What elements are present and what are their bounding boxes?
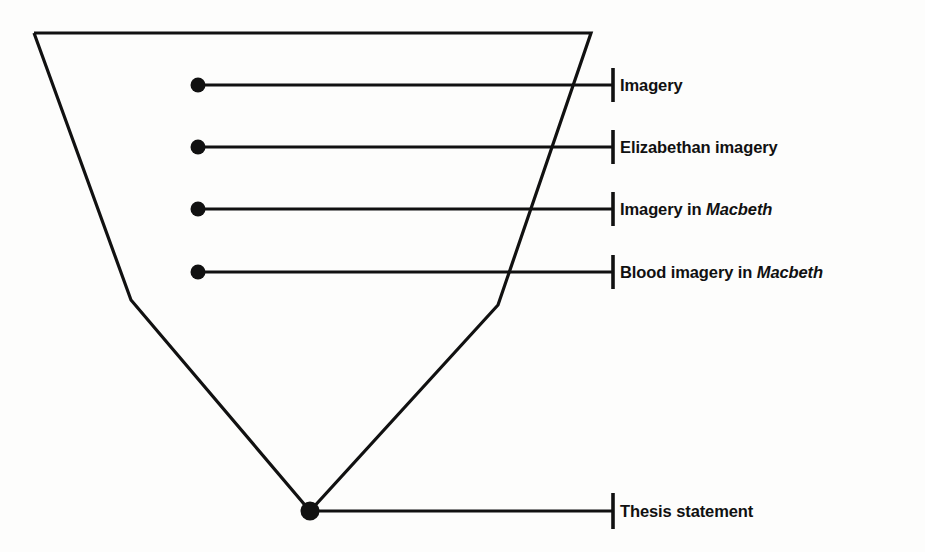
topic-label-text: Thesis statement	[620, 502, 753, 520]
topic-label-text: Imagery	[620, 76, 683, 94]
connector-row	[191, 192, 614, 226]
connector-start-dot-icon	[191, 202, 206, 217]
topic-label-text: Elizabethan imagery	[620, 138, 778, 156]
topic-label-row-blood-imagery-in-macbeth: Blood imagery in Macbeth	[620, 264, 823, 281]
topic-label-row-imagery: Imagery	[620, 77, 683, 94]
connector-row	[301, 493, 614, 529]
topic-label-text: Blood imagery in	[620, 263, 757, 281]
connector-start-dot-icon	[191, 140, 206, 155]
connector-start-dot-icon	[301, 502, 320, 521]
topic-label-title-italic: Macbeth	[706, 200, 772, 218]
connector-start-dot-icon	[191, 78, 206, 93]
topic-label-title-italic: Macbeth	[757, 263, 823, 281]
topic-label-row-imagery-in-macbeth: Imagery in Macbeth	[620, 201, 772, 218]
topic-label-row-elizabethan-imagery: Elizabethan imagery	[620, 139, 778, 156]
funnel-diagram: ImageryElizabethan imageryImagery in Mac…	[0, 0, 925, 552]
topic-label-row-thesis-statement: Thesis statement	[620, 503, 753, 520]
connector-row	[191, 68, 614, 102]
topic-label-text: Imagery in	[620, 200, 706, 218]
connector-row	[191, 255, 614, 289]
connector-start-dot-icon	[191, 265, 206, 280]
connector-group	[191, 68, 614, 529]
